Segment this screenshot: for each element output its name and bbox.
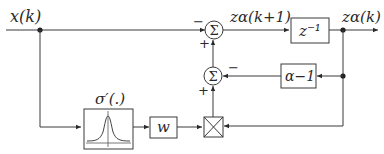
block-diagram: x(k) Σ − + zα(k+1) z⁻¹ zα(k) α−1 Σ − + σ… [0, 0, 384, 154]
weight-block: w [150, 117, 177, 138]
multiplier-block [204, 117, 223, 137]
sum-top-plus-sign: + [199, 36, 210, 51]
activation-block [84, 109, 133, 149]
delay-block: z⁻¹ [291, 18, 329, 43]
sigma-icon: Σ [209, 23, 218, 38]
activation-label: σ′(.) [95, 90, 125, 108]
weight-label: w [157, 118, 170, 136]
sum-mid-plus-sign: + [198, 83, 209, 98]
input-to-activation-wire [40, 30, 81, 127]
sigma-icon: Σ [208, 69, 217, 84]
sum-mid-minus-sign: − [228, 60, 239, 75]
input-label: x(k) [10, 7, 41, 26]
delay-block-label: z⁻¹ [298, 22, 321, 40]
feedback-gain-block: α−1 [281, 64, 316, 88]
feedback-gain-label: α−1 [285, 68, 315, 84]
output-label: zα(k) [341, 8, 381, 26]
sum-top-minus-sign: − [193, 14, 204, 29]
next-state-label: zα(k+1) [229, 8, 291, 26]
